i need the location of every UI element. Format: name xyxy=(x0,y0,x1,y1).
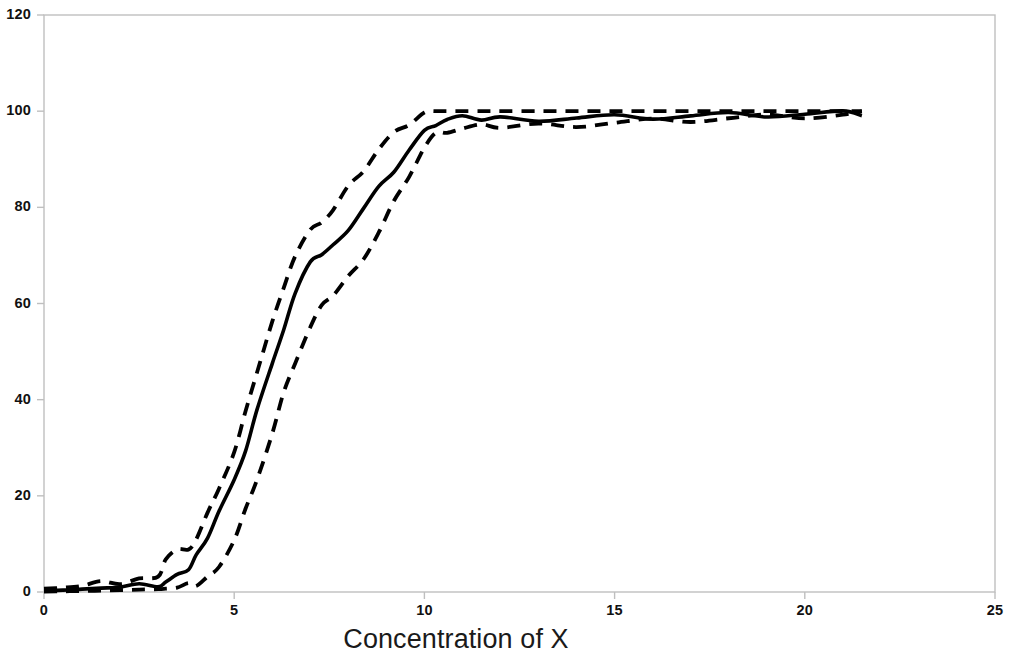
chart-figure: 020406080100120 0510152025 Concentration… xyxy=(0,0,1012,664)
plot-frame xyxy=(44,15,995,592)
x-tick-label: 5 xyxy=(204,602,264,618)
series-line-upper-bound xyxy=(44,111,862,589)
series-line-fitted-curve xyxy=(44,111,862,591)
y-tick-label: 100 xyxy=(0,102,31,118)
x-axis-title: Concentration of X xyxy=(0,624,912,655)
y-tick-label: 80 xyxy=(0,198,31,214)
y-tick-label: 0 xyxy=(0,583,31,599)
y-tick-label: 120 xyxy=(0,6,31,22)
data-series-group xyxy=(44,111,862,592)
axis-ticks xyxy=(37,15,995,599)
x-tick-label: 25 xyxy=(965,602,1012,618)
chart-plot-svg xyxy=(0,0,1012,664)
x-tick-label: 10 xyxy=(394,602,454,618)
series-line-lower-bound xyxy=(44,111,862,591)
y-tick-label: 60 xyxy=(0,295,31,311)
y-tick-label: 40 xyxy=(0,391,31,407)
x-tick-label: 15 xyxy=(585,602,645,618)
y-tick-label: 20 xyxy=(0,487,31,503)
x-tick-label: 20 xyxy=(775,602,835,618)
plot-border xyxy=(44,15,995,592)
x-tick-label: 0 xyxy=(14,602,74,618)
